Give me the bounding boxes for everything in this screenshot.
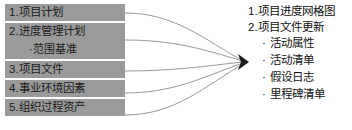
output-bullet-2-label: 活动清单	[270, 54, 314, 66]
output-bullet-1: ·活动属性	[262, 35, 352, 52]
output-bullet-1-label: 活动属性	[270, 37, 314, 49]
connector-curve-1	[125, 13, 243, 61]
output-bullet-2: ·活动清单	[262, 52, 352, 69]
output-bullet-3-label: 假设日志	[270, 71, 314, 83]
input-box-4-label: 4.事业环境因素	[9, 82, 85, 94]
output-heading-1: 1.项目进度网格图	[248, 3, 352, 19]
input-box-5-label: 5.组织过程资产	[9, 101, 85, 113]
bullet-dot-icon: ·	[262, 69, 270, 86]
bullet-dot-icon: ·	[262, 52, 270, 69]
input-box-3-label: 3.项目文件	[9, 63, 63, 75]
input-box-2[interactable]: 2.进度管理计划 ·范围基准	[5, 23, 125, 59]
input-box-1-label: 1.项目计划	[9, 6, 63, 18]
input-box-2-label: 2.进度管理计划	[9, 25, 85, 37]
bullet-dot-icon: ·	[262, 86, 270, 103]
input-box-3[interactable]: 3.项目文件	[5, 61, 125, 78]
bullet-dot-icon: ·	[262, 35, 270, 52]
output-heading-2: 2.项目文件更新	[248, 19, 352, 35]
connector-curve-5	[125, 64, 243, 115]
connector-curve-4	[125, 63, 243, 93]
outputs-group: 1.项目进度网格图 2.项目文件更新 ·活动属性 ·活动清单 ·假设日志 ·里程…	[248, 3, 352, 103]
output-bullet-3: ·假设日志	[262, 69, 352, 86]
output-bullet-list: ·活动属性 ·活动清单 ·假设日志 ·里程碑清单	[248, 35, 352, 103]
input-box-1[interactable]: 1.项目计划	[5, 4, 125, 21]
input-box-5[interactable]: 5.组织过程资产	[5, 99, 125, 116]
input-box-4[interactable]: 4.事业环境因素	[5, 80, 125, 97]
output-bullet-4-label: 里程碑清单	[270, 88, 325, 100]
input-box-2-subitem: ·范围基准	[9, 40, 125, 58]
output-bullet-4: ·里程碑清单	[262, 86, 352, 103]
inputs-group: 1.项目计划 2.进度管理计划 ·范围基准 3.项目文件 4.事业环境因素 5.…	[5, 4, 125, 118]
